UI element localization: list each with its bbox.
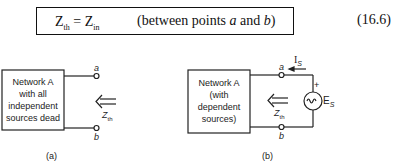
network-label-a: Network A with all independent sources d… xyxy=(2,76,64,124)
network-label-b: Network A (with dependent sources) xyxy=(188,77,250,125)
terminal-b-icon xyxy=(94,126,99,131)
current-label: IS xyxy=(294,54,302,67)
terminal-a-label: a xyxy=(94,63,99,73)
polarity-plus: + xyxy=(314,80,319,90)
impedance-arrow-icon xyxy=(96,95,116,108)
terminal-a-icon xyxy=(94,74,99,79)
terminal-b-icon xyxy=(279,125,284,130)
caption-a: (a) xyxy=(46,151,57,161)
terminal-a-label: a xyxy=(279,62,284,72)
terminal-b-label: b xyxy=(279,131,284,141)
impedance-label: Zth xyxy=(102,110,113,122)
terminal-a-icon xyxy=(279,73,284,78)
caption-b: (b) xyxy=(262,151,273,161)
terminal-b-label: b xyxy=(94,132,99,142)
impedance-arrow-icon xyxy=(268,94,288,107)
source-label: ES xyxy=(323,95,334,108)
sine-wave-icon xyxy=(307,99,316,103)
impedance-label: Zth xyxy=(274,108,285,120)
